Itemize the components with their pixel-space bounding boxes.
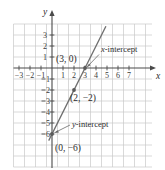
y-intercept-leader-line — [56, 125, 70, 132]
y-tick-neg1: 1 — [46, 75, 50, 84]
y-axis-label: y — [42, 7, 48, 17]
point-x-intercept — [83, 66, 87, 70]
x-tick-6: 6 — [116, 71, 120, 80]
y-tick-2: 2 — [43, 42, 47, 51]
x-tick-7: 7 — [127, 71, 131, 80]
y-tick-labels: 3 2 1 1 2 3 4 5 6 — [42, 31, 51, 139]
x-tick-neg1: −1 — [37, 71, 46, 80]
x-intercept-rest: -intercept — [105, 44, 138, 54]
y-tick-3: 3 — [43, 31, 47, 40]
y-tick-neg2: 2 — [46, 86, 50, 95]
label-point-2-neg2: (2, −2) — [70, 93, 96, 104]
annotation-y-intercept: y-intercept — [54, 119, 109, 133]
x-axis-label: x — [155, 71, 161, 81]
annotation-x-intercept: x-intercept — [86, 44, 138, 68]
svg-text:x-intercept: x-intercept — [100, 44, 138, 54]
y-tick-neg5: 5 — [46, 119, 50, 128]
y-tick-1: 1 — [43, 53, 47, 62]
svg-text:y-intercept: y-intercept — [71, 119, 109, 129]
y-tick-neg3: 3 — [46, 97, 50, 106]
x-tick-labels: −3 −2 −1 1 2 3 4 5 6 7 — [15, 71, 131, 80]
y-tick-neg4: 4 — [46, 108, 50, 117]
x-tick-2: 2 — [72, 71, 76, 80]
point-y-intercept — [50, 132, 54, 136]
x-tick-4: 4 — [94, 71, 98, 80]
x-tick-neg3: −3 — [15, 71, 24, 80]
point-two-neg-two — [72, 88, 76, 92]
y-tick-neg6: 6 — [46, 130, 50, 139]
x-tick-1: 1 — [61, 71, 65, 80]
x-tick-neg2: −2 — [26, 71, 35, 80]
graph-figure: −3 −2 −1 1 2 3 4 5 6 7 3 2 1 1 2 3 4 5 6 — [0, 0, 165, 170]
label-point-3-0: (3, 0) — [56, 54, 77, 65]
coordinate-plane: −3 −2 −1 1 2 3 4 5 6 7 3 2 1 1 2 3 4 5 6 — [0, 0, 165, 170]
x-tick-5: 5 — [105, 71, 109, 80]
label-point-0-neg6: (0, −6) — [55, 143, 81, 154]
y-intercept-rest: -intercept — [76, 119, 109, 129]
